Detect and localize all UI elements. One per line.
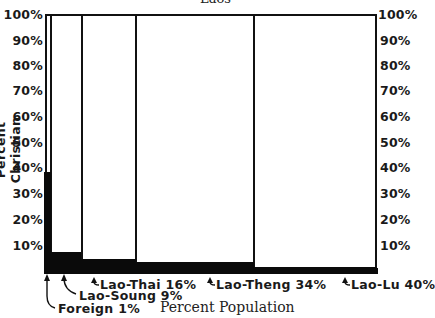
annotation-lao-lu: Lao-Lu 40% — [351, 277, 435, 292]
x-axis-baseline — [44, 268, 378, 274]
y-tick-right-10: 10% — [380, 239, 411, 253]
y-tick-left-60: 60% — [0, 110, 43, 124]
y-tick-right-90: 90% — [380, 34, 411, 48]
y-tick-left-20: 20% — [0, 213, 43, 227]
divider-thai-theng — [135, 15, 137, 273]
y-tick-left-100: 100% — [0, 8, 43, 22]
y-tick-right-60: 60% — [380, 110, 411, 124]
y-tick-right-30: 30% — [380, 187, 411, 201]
x-axis-label: Percent Population — [160, 299, 295, 315]
y-tick-left-90: 90% — [0, 34, 43, 48]
y-tick-right-70: 70% — [380, 84, 411, 98]
divider-theng-lu — [253, 15, 255, 273]
y-tick-left-70: 70% — [0, 84, 43, 98]
y-tick-left-30: 30% — [0, 187, 43, 201]
plot-frame — [45, 14, 377, 273]
y-tick-right-50: 50% — [380, 136, 411, 150]
y-tick-left-80: 80% — [0, 59, 43, 73]
y-tick-right-20: 20% — [380, 213, 411, 227]
chart-title: Laos — [0, 0, 431, 6]
y-tick-left-40: 40% — [0, 161, 43, 175]
y-tick-left-50: 50% — [0, 136, 43, 150]
annotation-foreign: Foreign 1% — [58, 301, 140, 316]
divider-soung-thai — [81, 15, 83, 273]
y-tick-left-10: 10% — [0, 239, 43, 253]
y-tick-right-100: 100% — [378, 8, 417, 22]
y-tick-right-80: 80% — [380, 59, 411, 73]
y-tick-right-40: 40% — [380, 161, 411, 175]
annotation-lao-theng: Lao-Theng 34% — [216, 277, 326, 292]
